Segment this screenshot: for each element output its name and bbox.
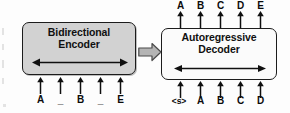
encoder-bidirectional-arrow-icon	[32, 58, 128, 67]
decoder-input-token: B	[210, 95, 231, 106]
decoder-title: Autoregressive Decoder	[181, 32, 256, 55]
decoder-output-token: A	[170, 0, 191, 11]
encoder-input-arrow	[57, 77, 64, 94]
encoder-input-arrow	[77, 77, 84, 94]
decoder-output-token: D	[230, 0, 251, 11]
encoder-input-token: B	[70, 94, 91, 105]
decoder-input-token: <s>	[166, 96, 192, 107]
encoder-input-arrow	[117, 77, 124, 94]
encoder-input-token: _	[90, 94, 111, 105]
bidirectional-encoder-box: Bidirectional Encoder	[22, 22, 136, 75]
encoder-input-token: _	[50, 94, 71, 105]
block-arrow-right-icon	[138, 42, 162, 62]
encoder-input-token: A	[30, 94, 51, 105]
decoder-output-arrow	[217, 11, 224, 28]
decoder-input-token: C	[230, 95, 251, 106]
scan-artifact	[2, 78, 4, 84]
decoder-output-arrow	[257, 11, 264, 28]
decoder-input-token: D	[250, 95, 271, 106]
decoder-input-token: A	[190, 95, 211, 106]
scan-artifact	[2, 44, 4, 50]
autoregressive-decoder-box: Autoregressive Decoder	[161, 28, 277, 80]
encoder-input-token: E	[110, 94, 131, 105]
scan-artifact	[2, 28, 4, 35]
decoder-output-token: C	[210, 0, 231, 11]
scan-artifact	[3, 104, 6, 107]
decoder-output-arrow	[197, 11, 204, 28]
decoder-output-token: E	[250, 0, 271, 11]
decoder-bidirectional-arrow-icon	[174, 64, 266, 73]
scan-artifact	[2, 60, 4, 68]
encoder-input-arrow	[37, 77, 44, 94]
encoder-input-arrow	[97, 77, 104, 94]
decoder-output-arrow	[237, 11, 244, 28]
decoder-output-arrow	[177, 11, 184, 28]
encoder-decoder-diagram: Bidirectional Encoder A _ B _ E Autoregr…	[0, 0, 290, 113]
encoder-title: Bidirectional Encoder	[48, 27, 110, 50]
decoder-output-token: B	[190, 0, 211, 11]
